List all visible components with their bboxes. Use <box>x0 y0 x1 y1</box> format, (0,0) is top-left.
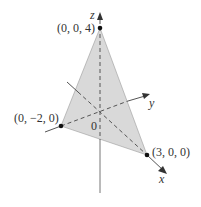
z-axis-label: z <box>89 8 95 22</box>
point-z-intercept <box>98 26 103 31</box>
point-x-intercept <box>145 153 150 158</box>
label-x-intercept: (3, 0, 0) <box>152 145 190 159</box>
label-z-intercept: (0, 0, 4) <box>57 21 95 35</box>
point-y-intercept <box>59 124 64 129</box>
y-axis-negative-solid <box>45 126 61 132</box>
label-y-intercept: (0, −2, 0) <box>14 111 59 125</box>
label-origin: 0 <box>91 119 97 133</box>
y-axis-label: y <box>148 96 155 110</box>
z-axis-arrowhead <box>97 12 103 20</box>
x-axis-label: x <box>158 172 165 186</box>
plane-triangle <box>61 28 147 155</box>
plane-diagram: (0, 0, 4) (0, −2, 0) (3, 0, 0) 0 z y x <box>0 0 201 207</box>
y-axis-positive-solid <box>128 96 145 101</box>
